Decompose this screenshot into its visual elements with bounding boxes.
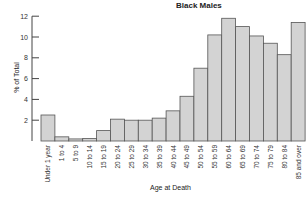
x-tick-label: 55 to 59 (211, 145, 218, 169)
x-tick-label: 65 to 69 (239, 145, 246, 169)
bar (138, 120, 152, 141)
x-tick-label: 80 to 84 (281, 145, 288, 169)
y-tick-label: 8 (24, 54, 28, 61)
bar (41, 115, 55, 141)
x-tick-label: 85 and over (295, 144, 302, 179)
bar (166, 111, 180, 141)
x-tick-label: 25 to 29 (128, 145, 135, 169)
bar (222, 18, 236, 141)
bar (111, 119, 125, 141)
x-tick-label: 1 to 4 (58, 145, 65, 162)
bar (124, 120, 138, 141)
x-tick-label: 50 to 54 (197, 145, 204, 169)
bar (55, 137, 69, 141)
y-tick-label: 4 (24, 96, 28, 103)
y-tick-label: 12 (20, 13, 28, 20)
bar (208, 35, 222, 141)
bar (250, 36, 264, 141)
bar (152, 118, 166, 141)
bar (69, 139, 83, 141)
bar (277, 55, 291, 141)
x-tick-label: 70 to 74 (253, 145, 260, 169)
x-tick-label: 15 to 19 (100, 145, 107, 169)
x-tick-label: 10 to 14 (86, 145, 93, 169)
bar (194, 68, 208, 141)
x-tick-label: 30 to 34 (142, 145, 149, 169)
bar (180, 96, 194, 141)
bar (263, 43, 277, 141)
x-tick-label: 5 to 9 (72, 145, 79, 162)
bar (83, 138, 97, 141)
x-tick-label: 45 to 49 (183, 145, 190, 169)
x-tick-label: Under 1 year (44, 144, 52, 182)
x-tick-label: 40 to 44 (170, 145, 177, 169)
x-tick-label: 35 to 39 (156, 145, 163, 169)
y-tick-label: 6 (24, 75, 28, 82)
bar (236, 27, 250, 141)
y-tick-label: 2 (24, 117, 28, 124)
x-tick-label: 75 to 79 (267, 145, 274, 169)
x-tick-label: 20 to 24 (114, 145, 121, 169)
y-tick-label: 10 (20, 34, 28, 41)
bar-chart: 24681012Under 1 year1 to 45 to 910 to 14… (0, 0, 308, 199)
bar (291, 22, 305, 141)
bar (97, 131, 111, 141)
x-tick-label: 60 to 64 (225, 145, 232, 169)
